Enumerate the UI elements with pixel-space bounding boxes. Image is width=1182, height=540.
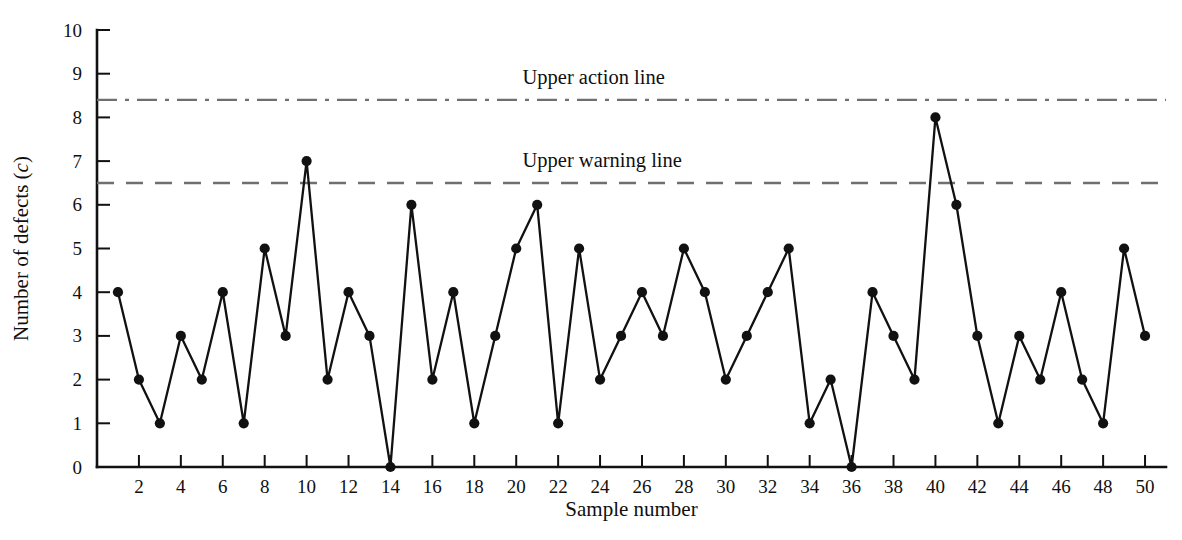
upper-warning-line-label: Upper warning line xyxy=(523,149,682,172)
x-tick-label: 40 xyxy=(926,476,945,497)
x-tick-label: 42 xyxy=(968,476,987,497)
data-point xyxy=(658,331,668,341)
data-point xyxy=(511,243,521,253)
x-tick-label: 14 xyxy=(381,476,401,497)
data-point xyxy=(448,287,458,297)
x-tick-label: 34 xyxy=(800,476,820,497)
x-tick-label: 44 xyxy=(1010,476,1030,497)
data-point xyxy=(239,418,249,428)
x-tick-label: 8 xyxy=(260,476,270,497)
data-point xyxy=(993,418,1003,428)
data-point xyxy=(972,331,982,341)
data-point xyxy=(218,287,228,297)
y-tick-label: 5 xyxy=(73,238,83,259)
data-point xyxy=(406,200,416,210)
data-point xyxy=(427,375,437,385)
data-point xyxy=(1077,375,1087,385)
x-tick-label: 20 xyxy=(507,476,526,497)
x-axis-tick-marks xyxy=(139,455,1145,467)
data-point xyxy=(385,462,395,472)
x-tick-label: 30 xyxy=(716,476,735,497)
data-point xyxy=(469,418,479,428)
x-tick-label: 22 xyxy=(549,476,568,497)
y-tick-label: 4 xyxy=(73,282,83,303)
data-point xyxy=(574,243,584,253)
data-point xyxy=(846,462,856,472)
data-point xyxy=(176,331,186,341)
data-point xyxy=(134,375,144,385)
y-axis-tick-labels: 012345678910 xyxy=(63,20,83,478)
x-axis-tick-labels: 2468101214161820222426283032343638404244… xyxy=(134,476,1154,497)
x-tick-label: 12 xyxy=(339,476,358,497)
y-tick-label: 10 xyxy=(63,20,82,41)
x-tick-label: 24 xyxy=(591,476,611,497)
data-point xyxy=(826,375,836,385)
data-point xyxy=(1119,243,1129,253)
data-point xyxy=(1014,331,1024,341)
reference-line-labels: Upper action lineUpper warning line xyxy=(523,66,682,172)
x-tick-label: 16 xyxy=(423,476,442,497)
data-point xyxy=(155,418,165,428)
upper-action-line-label: Upper action line xyxy=(523,66,665,89)
x-tick-label: 2 xyxy=(134,476,144,497)
x-tick-label: 32 xyxy=(758,476,777,497)
data-point xyxy=(700,287,710,297)
data-point xyxy=(553,418,563,428)
x-tick-label: 48 xyxy=(1094,476,1113,497)
data-point xyxy=(763,287,773,297)
data-point xyxy=(1056,287,1066,297)
data-point xyxy=(595,375,605,385)
x-tick-label: 38 xyxy=(884,476,903,497)
data-point xyxy=(616,331,626,341)
y-tick-label: 3 xyxy=(73,325,83,346)
data-point xyxy=(742,331,752,341)
y-tick-label: 7 xyxy=(73,151,83,172)
x-tick-label: 10 xyxy=(297,476,316,497)
data-point xyxy=(260,243,270,253)
control-chart: 012345678910 246810121416182022242628303… xyxy=(0,0,1182,540)
data-point xyxy=(1140,331,1150,341)
x-tick-label: 18 xyxy=(465,476,484,497)
x-axis-title: Sample number xyxy=(565,497,697,521)
data-point xyxy=(343,287,353,297)
data-point xyxy=(784,243,794,253)
data-point xyxy=(197,375,207,385)
x-tick-label: 28 xyxy=(674,476,693,497)
data-point xyxy=(909,375,919,385)
data-point xyxy=(364,331,374,341)
x-tick-label: 50 xyxy=(1136,476,1155,497)
y-tick-label: 2 xyxy=(73,369,83,390)
x-tick-label: 36 xyxy=(842,476,861,497)
data-point xyxy=(322,375,332,385)
y-axis-title: Number of defects (c) xyxy=(9,156,33,341)
data-point xyxy=(302,156,312,166)
data-point xyxy=(281,331,291,341)
x-tick-label: 6 xyxy=(218,476,228,497)
y-tick-label: 6 xyxy=(73,194,83,215)
data-point xyxy=(1098,418,1108,428)
data-point xyxy=(113,287,123,297)
y-tick-label: 1 xyxy=(73,413,83,434)
data-point xyxy=(637,287,647,297)
data-point xyxy=(532,200,542,210)
data-point xyxy=(679,243,689,253)
x-tick-label: 46 xyxy=(1052,476,1071,497)
chart-canvas: 012345678910 246810121416182022242628303… xyxy=(0,0,1182,540)
y-tick-label: 0 xyxy=(73,457,83,478)
data-point xyxy=(721,375,731,385)
x-tick-label: 4 xyxy=(176,476,186,497)
x-tick-label: 26 xyxy=(632,476,651,497)
data-point xyxy=(1035,375,1045,385)
data-point xyxy=(951,200,961,210)
data-point xyxy=(888,331,898,341)
y-tick-label: 8 xyxy=(73,107,83,128)
y-tick-label: 9 xyxy=(73,63,83,84)
data-point xyxy=(490,331,500,341)
data-point xyxy=(805,418,815,428)
data-point xyxy=(867,287,877,297)
y-axis-tick-marks xyxy=(97,30,110,423)
data-point xyxy=(930,112,940,122)
